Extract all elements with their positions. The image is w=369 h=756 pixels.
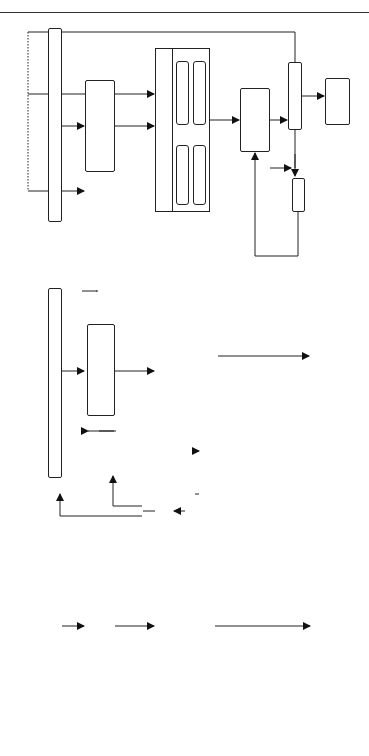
level3-evaluate-box (240, 88, 270, 152)
level3-byproduct-plausible-goals (193, 145, 206, 205)
level3-will-it-work-box (288, 62, 302, 130)
level3-recognition-box (155, 48, 210, 212)
level3-experience-box (48, 28, 62, 222)
level3-byproduct-expectancies (176, 145, 189, 205)
rpd-diagram (0, 0, 369, 756)
level3-byproduct-actions (193, 61, 206, 125)
level3-perceived-box (85, 80, 115, 172)
level3-recognition-header (156, 49, 173, 211)
level3-byproduct-relevant-cues (176, 61, 189, 125)
level2-perceived-box (87, 324, 115, 416)
level3-modify-box (292, 178, 305, 212)
level2-experience-box (48, 288, 62, 478)
level3-implement-box (325, 78, 350, 125)
